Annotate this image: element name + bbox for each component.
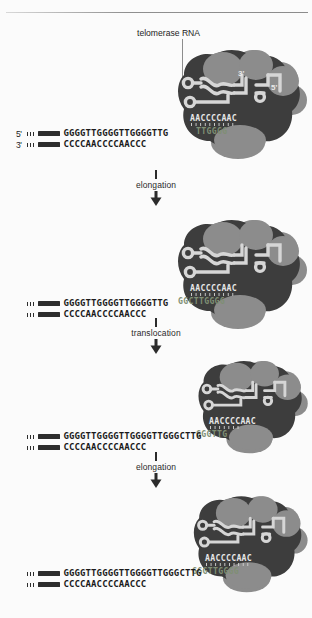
step-label: elongation xyxy=(0,462,312,473)
bottom-strand-sequence: CCCCAACCCCAACCC xyxy=(64,579,147,590)
step-elongation-2: elongation xyxy=(0,452,312,488)
rna-5prime-label: 5' xyxy=(271,83,277,92)
dna-under-enzyme-2: GGCTTGGGG xyxy=(178,296,225,306)
telomerase-enzyme-shape xyxy=(190,348,312,463)
telomerase-enzyme-3 xyxy=(190,348,312,463)
dna-under-enzyme-1: TTGGGG xyxy=(196,126,227,136)
strand-solid-bar xyxy=(38,582,60,587)
strand-solid-bar xyxy=(38,445,60,450)
dna-duplex-1: 5' GGGGTTGGGGTTGGGGTTG 3' CCCCAACCCCAACC… xyxy=(16,128,168,150)
telomerase-enzyme-shape xyxy=(168,215,312,330)
top-strand-sequence: GGGGTTGGGGTTGGGGTTG xyxy=(64,128,169,139)
telomerase-enzyme-shape xyxy=(168,45,312,160)
top-strand-sequence: GGGGTTGGGGTTGGGGTTG xyxy=(64,298,169,309)
telomerase-enzyme-1 xyxy=(168,45,312,160)
top-strand-sequence: GGGGTTGGGGTTGGGGTTGGGCTTG xyxy=(64,431,202,442)
step-elongation-1: elongation xyxy=(0,170,312,206)
dna-top-strand-row: 5' GGGGTTGGGGTTGGGGTTG xyxy=(16,298,168,309)
strand-break-dots xyxy=(27,132,36,136)
strand-3prime-label: 3' xyxy=(16,140,27,150)
down-arrow-icon xyxy=(149,191,163,206)
dna-top-strand-row: 5' GGGGTTGGGGTTGGGGTTG xyxy=(16,128,168,139)
strand-break-dots xyxy=(27,446,36,450)
strand-break-dots xyxy=(27,572,36,576)
strand-solid-bar xyxy=(38,312,60,317)
rna-template-sequence-1: AACCCCAAC xyxy=(190,113,237,123)
rna-template-sequence-2: AACCCCAAC xyxy=(190,283,237,293)
dna-duplex-3: 5' GGGGTTGGGGTTGGGGTTGGGCTTG 3' CCCCAACC… xyxy=(16,431,201,453)
rna-template-sequence-4: AACCCCAAC xyxy=(205,553,252,563)
strand-break-dots xyxy=(27,143,36,147)
figure-canvas: telomerase RNA xyxy=(0,0,312,618)
bottom-strand-sequence: CCCCAACCCCAACCC xyxy=(64,139,147,150)
top-strand-sequence: GGGGTTGGGGTTGGGGTTGGGCTTG xyxy=(64,568,202,579)
strand-solid-bar xyxy=(38,142,60,147)
strand-break-dots xyxy=(27,313,36,317)
dna-top-strand-row: 5' GGGGTTGGGGTTGGGGTTGGGCTTG xyxy=(16,568,201,579)
telomerase-rna-callout: telomerase RNA xyxy=(137,28,200,38)
arrow-head-wrap xyxy=(0,191,312,206)
telomerase-enzyme-4 xyxy=(185,485,312,600)
strand-break-dots xyxy=(27,583,36,587)
panel-1: telomerase RNA xyxy=(0,0,312,170)
dna-duplex-2: 5' GGGGTTGGGGTTGGGGTTG 3' CCCCAACCCCAACC… xyxy=(16,298,168,320)
dna-bottom-strand-row: 3' CCCCAACCCCAACCC xyxy=(16,139,168,150)
telomerase-enzyme-2 xyxy=(168,215,312,330)
strand-5prime-label: 5' xyxy=(16,129,27,139)
rna-3prime-label: 3' xyxy=(238,69,244,78)
panel-4: AACCCCAAC GGGTTGGGG 5' GGGGTTGGGGTTGGGGT… xyxy=(0,485,312,618)
dna-duplex-4: 5' GGGGTTGGGGTTGGGGTTGGGCTTG 3' CCCCAACC… xyxy=(16,568,201,590)
rna-template-sequence-3: AACCCCAAC xyxy=(209,416,256,426)
strand-solid-bar xyxy=(38,131,60,136)
strand-solid-bar xyxy=(38,434,60,439)
telomerase-rna-label: telomerase RNA xyxy=(137,28,200,38)
step-label: translocation xyxy=(0,328,312,339)
dna-top-strand-row: 5' GGGGTTGGGGTTGGGGTTGGGCTTG xyxy=(16,431,201,442)
arrow-stem xyxy=(155,318,157,327)
strand-break-dots xyxy=(27,435,36,439)
strand-solid-bar xyxy=(38,301,60,306)
strand-break-dots xyxy=(27,302,36,306)
telomerase-enzyme-shape xyxy=(185,485,312,600)
step-label: elongation xyxy=(0,180,312,191)
arrow-stem xyxy=(155,170,157,179)
dna-bottom-strand-row: 3' CCCCAACCCCAACCC xyxy=(16,579,201,590)
arrow-stem xyxy=(155,452,157,461)
strand-solid-bar xyxy=(38,571,60,576)
